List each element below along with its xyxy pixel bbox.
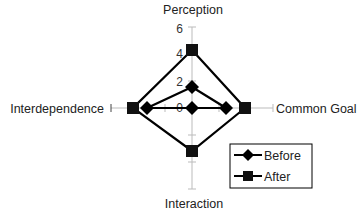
axis-label-interaction: Interaction xyxy=(165,197,223,211)
after-marker-interdependence xyxy=(127,102,139,114)
legend: Before After xyxy=(230,144,312,188)
series-after xyxy=(127,44,251,157)
axis-label-common-goal: Common Goal xyxy=(276,102,357,116)
legend-after-label: After xyxy=(264,170,290,184)
before-marker-interaction xyxy=(185,101,199,115)
axis-label-perception: Perception xyxy=(163,3,223,17)
radar-chart: 0 2 4 6 Perception Common Goal Interacti… xyxy=(0,0,358,216)
before-marker-perception xyxy=(185,80,199,94)
after-marker-common-goal xyxy=(239,102,251,114)
after-marker-interaction xyxy=(186,145,198,157)
after-marker-perception xyxy=(186,44,198,56)
axis-label-interdependence: Interdependence xyxy=(10,102,104,116)
legend-before-label: Before xyxy=(264,149,301,163)
legend-after-icon xyxy=(243,171,253,181)
before-marker-interdependence xyxy=(140,101,154,115)
before-marker-common-goal xyxy=(219,101,233,115)
tick-label-6: 6 xyxy=(176,22,183,36)
tick-label-2: 2 xyxy=(176,75,183,89)
